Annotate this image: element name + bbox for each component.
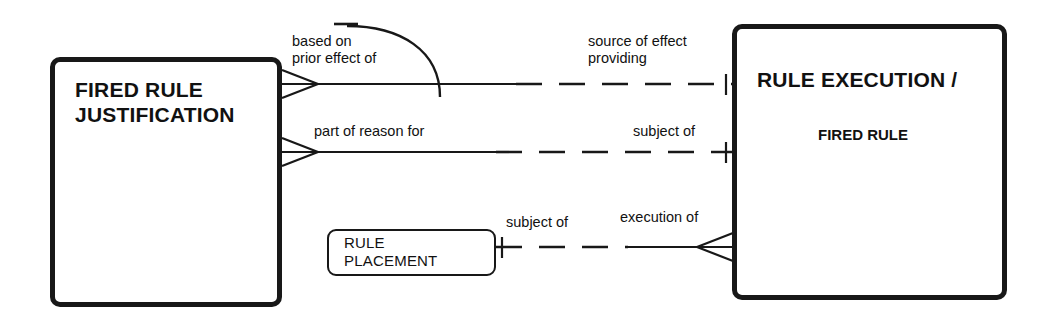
rel2-right-label: subject of: [633, 123, 753, 140]
rel3-left-label: subject of: [506, 214, 626, 231]
entity-rule-execution-fired-rule[interactable]: [732, 24, 1007, 300]
entity-fired-rule-justification-title: FIRED RULE JUSTIFICATION: [75, 78, 275, 128]
entity-rule-placement-title: RULE PLACEMENT: [344, 234, 504, 269]
rel2-left-label: part of reason for: [314, 123, 504, 140]
rel3-crowsfoot-many: [697, 233, 733, 261]
rel1-left-label: based on prior effect of: [292, 33, 442, 67]
rel1-right-label: source of effect providing: [588, 33, 758, 67]
rel3-right-label: execution of: [620, 209, 760, 226]
rel2-crowsfoot-many: [282, 138, 318, 166]
diagram-canvas: FIRED RULE JUSTIFICATION RULE EXECUTION …: [0, 0, 1046, 331]
entity-rule-execution-title: RULE EXECUTION /: [757, 68, 1007, 93]
rel1-crowsfoot-many: [282, 70, 318, 98]
entity-fired-rule-subtitle: FIRED RULE: [818, 126, 1018, 144]
